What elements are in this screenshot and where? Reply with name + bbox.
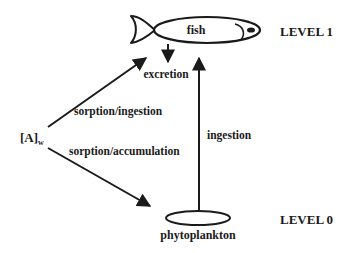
sorption-ingestion-label: sorption/ingestion (74, 105, 163, 118)
level-0-label: LEVEL 0 (280, 212, 333, 227)
level-1-label: LEVEL 1 (280, 24, 333, 39)
sorption-accumulation-label: sorption/accumulation (69, 145, 180, 158)
phytoplankton-icon (166, 211, 230, 225)
diagram-canvas: fish LEVEL 1 LEVEL 0 excretion ingestion… (0, 0, 355, 253)
fish-label: fish (187, 23, 206, 37)
excretion-label: excretion (143, 68, 189, 80)
phytoplankton-label: phytoplankton (160, 228, 236, 242)
diagram-svg: fish LEVEL 1 LEVEL 0 excretion ingestion… (0, 0, 355, 253)
water-concentration-subscript: w (38, 138, 44, 147)
water-concentration-symbol: [A] (20, 130, 38, 145)
water-concentration-label: [A]w (20, 130, 44, 147)
ingestion-label: ingestion (207, 129, 252, 142)
